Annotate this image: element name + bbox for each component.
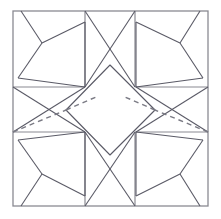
origami-figure-container bbox=[0, 0, 221, 219]
crease-pattern-svg bbox=[0, 0, 221, 219]
